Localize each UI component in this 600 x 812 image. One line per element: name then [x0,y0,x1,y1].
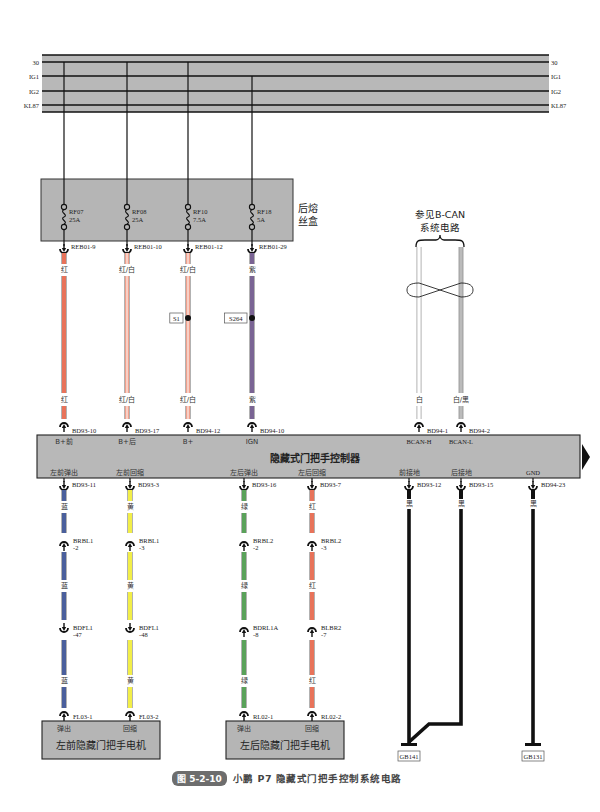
fuse-id: RF10 [193,208,207,215]
wire-segment [459,406,464,419]
fuse-output-pin: REB01-9 [71,243,96,250]
rail-label-left: KL87 [24,102,40,109]
controller-can-pin: BD94-1 [427,427,448,434]
fuse-id: RF07 [69,208,84,215]
rail-label-left: 30 [33,59,40,66]
wire-color-label: 红 [309,676,316,685]
controller-top-pin-label: B+后 [118,437,136,446]
connector-icon [60,423,68,432]
door-handle-motor: 弹出回缩左前隐藏门把手电机 [42,721,160,759]
controller-module: 隐藏式门把手控制器B+前B+后B+IGNBCAN-HBCAN-L左前弹出左前回缩… [37,435,590,478]
wire-segment [250,276,255,393]
wire-segment [62,592,67,620]
power-rail-background [42,55,549,112]
wire-color-label: 红/白 [180,395,196,404]
controller-output-pin: BD93-16 [252,481,277,488]
wire-segment [310,513,315,533]
inline-connector-pin: -7 [321,631,327,638]
wire-segment [310,552,315,580]
can-bus: 参见B-CAN系统电路白BD94-1白/黑BD94-2 [407,209,490,434]
wire-segment [128,552,133,580]
controller-input-pin: BD94-12 [196,427,220,434]
controller-input-pin: BD93-17 [135,427,160,434]
inline-connector-label: BDFL1 [139,624,159,631]
wire-color-label: 蓝 [61,581,68,590]
wire-segment [310,490,315,501]
ground-wire: BD94-23黑 [529,478,565,508]
connector-icon [308,542,316,551]
connector-icon [457,423,465,432]
connector-icon [529,481,537,490]
inline-connector-label: BRBL1 [73,537,93,544]
wire-segment [62,640,67,675]
wire-color-label: 白/黑 [453,395,469,404]
rail-label-right: IG2 [551,88,561,95]
motor-pin: FL03-2 [139,713,159,720]
wire-segment [125,406,130,419]
motor-pin-label: 弹出 [237,724,251,733]
can-reference-note: 参见B-CAN [415,209,465,220]
wire-segment [128,592,133,620]
wire-color-label: 黄 [127,502,134,511]
ground-icon [401,743,417,746]
wire-color-label: 蓝 [61,502,68,511]
rail-label-right: 30 [551,59,558,66]
wire-color-label: 红 [61,265,68,274]
motors: 弹出回缩左前隐藏门把手电机弹出回缩左后隐藏门把手电机 [42,721,344,759]
connector-icon [415,423,423,432]
inline-connector-label: BDRL1A [253,624,279,631]
wire-color-label: 白 [416,395,423,404]
controller-bottom-pin-label: 前接地 [399,468,420,477]
connector-icon [126,712,134,721]
wire-segment [310,592,315,620]
controller-top-pin-label: B+前 [55,437,73,446]
ground-point: GB141 [398,743,420,761]
ground-point: GB131 [522,743,544,761]
splice-label: S264 [229,315,243,322]
connector-icon [60,623,68,632]
lower-wire: BD93-11蓝BRBL1-2蓝BDFL1-47蓝FL03-1 [60,478,96,721]
rail-label-right: IG1 [551,73,561,80]
wire-segment [62,276,67,393]
can-wire: 白/黑BD94-2 [453,247,490,434]
motor-pin: RL02-1 [253,713,273,720]
wire-segment [310,640,315,675]
ground-wires: BD93-12黑BD93-15黑BD94-23黑GB141GB131 [398,478,565,761]
rail-label-left: IG1 [29,73,39,80]
figure-number-badge: 图 5-2-10 [172,771,227,786]
wire-segment [62,552,67,580]
inline-connector-pin: -3 [321,544,326,551]
connector-icon [240,712,248,721]
continuation-arrow-icon [582,444,590,470]
wire-segment [250,406,255,419]
connector-icon [126,623,134,632]
wire-color-label: 黑 [406,500,413,508]
ground-label: GB141 [400,753,419,760]
wire-segment [250,253,255,264]
connector-icon [60,542,68,551]
controller-output-pin: BD93-3 [138,481,159,488]
ground-wire-path [409,509,461,742]
fuse-id: RF18 [257,208,271,215]
connector-icon [126,481,134,490]
power-rail-bus: 3030IG1IG1IG2IG2KL87KL87 [24,55,567,112]
connector-icon [308,712,316,721]
wire-segment [62,490,67,501]
wire-color-label: 紫 [249,396,256,404]
wire-segment [417,247,422,393]
fuse-output-pin: REB01-10 [134,243,162,250]
upper-wires: 红红BD93-10红/白红/白BD93-17红/白红/白S1BD94-12紫紫S… [60,253,284,434]
wire-segment [242,640,247,675]
lower-wire: BD93-7红BRBL2-3红BLBR2-7红RL02-2 [308,478,342,721]
controller-bottom-pin-label: GND [526,469,540,476]
fuse-box-label: 后熔 [298,202,318,214]
inline-connector-label: BRBL2 [253,537,273,544]
motor-pin: FL03-1 [73,713,93,720]
wire-segment [186,276,191,393]
brace-icon [416,235,464,247]
connector-icon [248,423,256,432]
upper-wire: 红/白红/白BD93-17 [119,253,160,434]
motor-label: 左后隐藏门把手电机 [240,739,330,751]
ground-wire: BD93-15黑 [457,478,493,508]
wire-color-label: 紫 [249,266,256,274]
